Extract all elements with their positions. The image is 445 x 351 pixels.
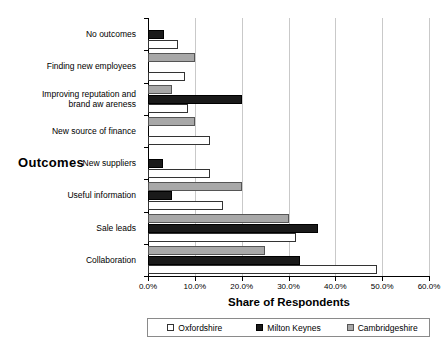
category-label: No outcomes [8,29,144,39]
bar-mk [148,95,242,104]
bar-mk [148,30,164,39]
legend: OxfordshireMilton KeynesCambridgeshire [147,318,430,337]
x-axis-tick-label: 10.0% [175,282,215,291]
bar-cb [148,117,195,126]
x-axis-tick-label: 20.0% [222,282,262,291]
x-axis-tick [335,277,336,281]
bar-ox [148,169,210,178]
bar-cb [148,85,172,94]
bar-cb [148,182,242,191]
bar-ox [148,40,178,49]
legend-swatch-icon [256,324,263,331]
legend-item-mk: Milton Keynes [242,323,336,333]
bar-mk [148,159,163,168]
bar-mk [148,256,300,265]
category-label-line: Useful information [8,190,136,200]
category-label: Finding new employees [8,61,144,71]
category-label-line: brand aw areness [8,99,136,109]
legend-swatch-icon [347,324,354,331]
x-axis-title: Share of Respondents [148,296,430,308]
category-label-line: New suppliers [8,158,136,168]
legend-label: Cambridgeshire [358,323,418,333]
x-axis-tick-label: 40.0% [315,282,355,291]
x-axis-tick [382,277,383,281]
category-label-line: Collaboration [8,255,136,265]
bar-cb [148,53,195,62]
bar-ox [148,201,223,210]
x-axis-tick [195,277,196,281]
category-label-line: Improving reputation and [8,89,136,99]
bar-cb [148,246,265,255]
category-label: Improving reputation andbrand aw areness [8,89,144,109]
x-axis-tick-label: 60.0% [409,282,445,291]
category-label: Useful information [8,190,144,200]
bar-mk [148,224,318,233]
bar-mk [148,191,172,200]
bar-ox [148,104,188,113]
x-axis-tick [148,277,149,281]
bar-cb [148,214,289,223]
gridline [382,18,383,276]
bar-ox [148,136,210,145]
x-axis-tick-label: 30.0% [269,282,309,291]
legend-label: Oxfordshire [178,323,222,333]
category-label: New suppliers [8,158,144,168]
gridline [429,18,430,276]
bar-ox [148,265,377,274]
x-axis-tick-label: 50.0% [362,282,402,291]
bar-ox [148,233,296,242]
x-axis-tick-label: 0.0% [128,282,168,291]
category-label: Sale leads [8,223,144,233]
gridline [335,18,336,276]
legend-label: Milton Keynes [267,323,320,333]
category-label: New source of finance [8,126,144,136]
category-label-line: Sale leads [8,223,136,233]
bar-ox [148,72,185,81]
legend-item-ox: Oxfordshire [148,323,242,333]
x-axis-tick [429,277,430,281]
x-axis-tick [242,277,243,281]
x-axis-tick [289,277,290,281]
legend-item-cb: Cambridgeshire [335,323,429,333]
category-label-line: New source of finance [8,126,136,136]
legend-swatch-icon [167,324,174,331]
category-label-line: No outcomes [8,29,136,39]
category-label-line: Finding new employees [8,61,136,71]
category-label: Collaboration [8,255,144,265]
